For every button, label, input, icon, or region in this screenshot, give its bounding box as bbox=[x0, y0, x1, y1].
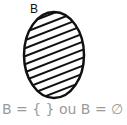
empty-set-ellipse bbox=[0, 0, 127, 100]
set-label: B bbox=[30, 3, 38, 15]
caption: B = { } ou B = ∅ bbox=[2, 102, 127, 116]
